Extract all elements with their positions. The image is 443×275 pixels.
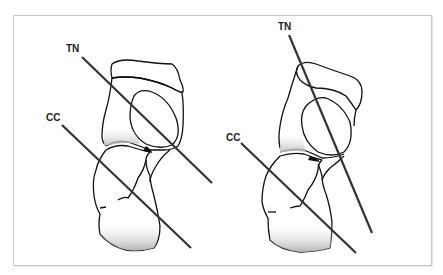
foot-axis-diagram: TN CC TN CC <box>0 0 443 275</box>
left-cc-label: CC <box>46 112 60 123</box>
left-tn-label: TN <box>66 43 79 54</box>
left-calcaneus-shading <box>100 220 159 250</box>
right-talus-shading <box>280 132 306 152</box>
right-calcaneus-shading <box>270 222 332 252</box>
right-cc-label: CC <box>226 132 240 143</box>
left-talus-shading <box>104 126 140 146</box>
right-tn-label: TN <box>278 21 291 32</box>
left-panel: TN CC <box>46 43 212 251</box>
right-panel: TN CC <box>226 21 372 253</box>
